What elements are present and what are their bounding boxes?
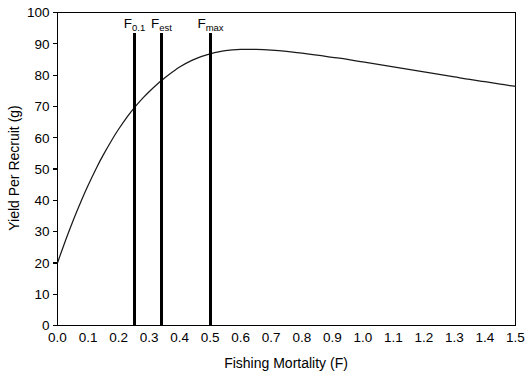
y-tick-label: 50 xyxy=(34,162,49,177)
x-tick-label: 0.1 xyxy=(79,330,98,345)
y-tick-label: 10 xyxy=(34,287,49,302)
reference-label-subscript: max xyxy=(206,22,224,33)
x-tick-label: 0.3 xyxy=(140,330,159,345)
x-tick-label: 0.7 xyxy=(262,330,281,345)
x-tick-label: 0.4 xyxy=(170,330,189,345)
x-tick-label: 0.6 xyxy=(231,330,250,345)
x-tick-label: 0.2 xyxy=(109,330,128,345)
reference-label-main: F xyxy=(151,16,159,31)
y-tick-label: 30 xyxy=(34,224,49,239)
x-tick-label: 0.5 xyxy=(201,330,220,345)
y-axis-title: Yield Per Recruit (g) xyxy=(6,105,22,231)
chart-canvas: 0102030405060708090100 0.00.10.20.30.40.… xyxy=(0,0,529,375)
reference-label-main: F xyxy=(124,16,132,31)
x-tick-label: 0.0 xyxy=(48,330,67,345)
y-tick-label: 80 xyxy=(34,68,49,83)
yield-per-recruit-chart: 0102030405060708090100 0.00.10.20.30.40.… xyxy=(0,0,529,375)
y-tick-label: 100 xyxy=(27,5,50,20)
reference-label-subscript: 0.1 xyxy=(132,22,145,33)
y-tick-label: 70 xyxy=(34,99,49,114)
x-tick-label: 0.9 xyxy=(323,330,342,345)
y-tick-label: 20 xyxy=(34,256,49,271)
y-tick-label: 90 xyxy=(34,37,49,52)
x-tick-label: 1.4 xyxy=(476,330,495,345)
reference-label-subscript: est xyxy=(159,22,172,33)
reference-label-main: F xyxy=(197,16,205,31)
x-tick-label: 1.5 xyxy=(506,330,525,345)
y-tick-label: 40 xyxy=(34,193,49,208)
x-tick-label: 1.2 xyxy=(415,330,434,345)
x-axis-title: Fishing Mortality (F) xyxy=(224,355,348,371)
chart-background xyxy=(0,0,529,375)
x-tick-label: 0.8 xyxy=(292,330,311,345)
x-tick-label: 1.0 xyxy=(353,330,372,345)
y-tick-label: 60 xyxy=(34,131,49,146)
x-tick-label: 1.3 xyxy=(445,330,464,345)
x-tick-label: 1.1 xyxy=(384,330,403,345)
